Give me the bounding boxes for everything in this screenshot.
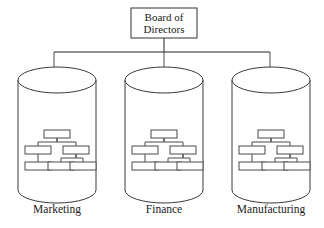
unit-label-manufacturing: Manufacturing xyxy=(237,203,306,216)
org-node[interactable] xyxy=(151,130,177,138)
business-unit-manufacturing: Manufacturing xyxy=(232,52,310,216)
org-node[interactable] xyxy=(177,162,203,170)
board-connector-bus xyxy=(54,38,270,52)
business-unit-finance: Finance xyxy=(125,52,203,215)
org-node[interactable] xyxy=(277,146,303,154)
cylinder-top-finance xyxy=(125,67,203,93)
org-node[interactable] xyxy=(25,146,51,154)
cylinder-top-manufacturing xyxy=(232,67,310,93)
org-node[interactable] xyxy=(258,130,284,138)
board-of-directors-node: Board of Directors xyxy=(131,8,197,38)
unit-label-finance: Finance xyxy=(146,203,182,215)
org-node[interactable] xyxy=(132,162,158,170)
org-node[interactable] xyxy=(239,146,265,154)
org-node[interactable] xyxy=(44,130,70,138)
board-label-line-2: Directors xyxy=(144,23,185,35)
cylinder-top-marketing xyxy=(18,67,96,93)
org-node[interactable] xyxy=(239,162,265,170)
org-node[interactable] xyxy=(63,146,89,154)
board-label-line-1: Board of xyxy=(145,11,184,23)
diagram-canvas: MarketingFinanceManufacturing Board of D… xyxy=(0,0,324,228)
org-node[interactable] xyxy=(132,146,158,154)
org-node[interactable] xyxy=(70,162,96,170)
unit-label-marketing: Marketing xyxy=(33,203,81,216)
org-node[interactable] xyxy=(284,162,310,170)
org-node[interactable] xyxy=(25,162,51,170)
organization-diagram: MarketingFinanceManufacturing Board of D… xyxy=(0,0,324,228)
org-node[interactable] xyxy=(170,146,196,154)
business-unit-marketing: Marketing xyxy=(18,52,96,216)
business-units-layer: MarketingFinanceManufacturing xyxy=(18,52,310,216)
